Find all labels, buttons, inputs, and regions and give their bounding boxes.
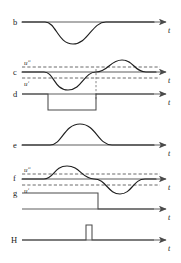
row-f-axis-label: t — [168, 183, 171, 192]
row-c-upper-threshold-label: uʺ — [24, 59, 31, 67]
row-e-axis-label: t — [168, 149, 171, 158]
row-H-label: H — [11, 235, 17, 245]
row-c-waveform — [22, 60, 156, 90]
row-d-waveform — [22, 94, 154, 110]
row-f-waveform — [22, 166, 156, 194]
row-H-waveform — [22, 225, 154, 240]
row-g: g t — [13, 188, 171, 222]
row-e-waveform — [22, 124, 154, 145]
row-d-axis-label: t — [168, 98, 171, 107]
row-g-axis-label: t — [168, 213, 171, 222]
row-f: f uʺ uʹ t — [13, 166, 171, 195]
row-e-label: e — [13, 140, 17, 150]
row-g-label: g — [13, 188, 18, 198]
row-H: H t — [11, 225, 171, 253]
row-c-label: c — [13, 67, 17, 77]
row-g-waveform — [22, 193, 154, 209]
row-H-axis-label: t — [168, 244, 171, 253]
row-f-lower-threshold-label: uʹ — [24, 187, 30, 195]
row-c-lower-threshold-label: uʹ — [24, 80, 30, 88]
row-e: e t — [13, 124, 171, 158]
row-b-axis-label: t — [168, 26, 171, 35]
row-b: b t — [13, 17, 171, 44]
row-f-upper-threshold-label: uʺ — [24, 166, 31, 174]
row-f-label: f — [13, 173, 16, 183]
row-d-label: d — [13, 89, 18, 99]
waveform-figure: b t c uʺ uʹ t d t e t f uʺ uʹ — [0, 0, 181, 263]
row-d: d t — [13, 89, 171, 110]
row-c-axis-label: t — [168, 76, 171, 85]
row-b-waveform — [22, 22, 154, 44]
row-b-label: b — [13, 17, 17, 27]
